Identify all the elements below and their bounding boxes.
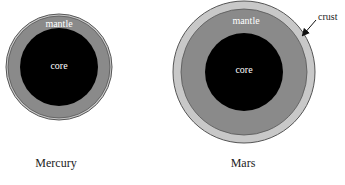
mercury-diagram: mantle core (6, 14, 112, 120)
crust-arrow-icon (303, 20, 316, 35)
diagram-canvas: mantle core mantle core crust Mercury Ma… (0, 0, 345, 185)
mercury-name-label: Mercury (35, 156, 76, 170)
mars-name-label: Mars (231, 156, 256, 170)
mercury-core-label: core (50, 60, 68, 71)
mars-crust-label: crust (318, 11, 338, 22)
mercury-mantle-label: mantle (45, 18, 73, 29)
mars-core-label: core (235, 64, 253, 75)
mars-mantle-label: mantle (232, 15, 260, 26)
mars-diagram: mantle core crust (173, 1, 338, 143)
